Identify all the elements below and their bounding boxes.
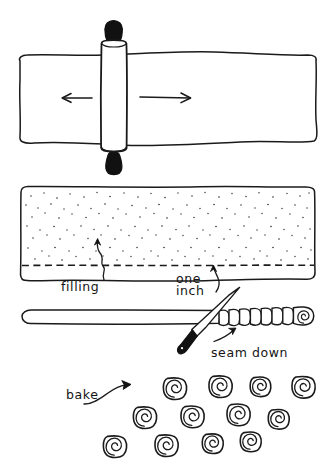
label-filling: filling xyxy=(61,279,99,294)
roll-item xyxy=(240,432,261,452)
roll-item xyxy=(268,410,289,430)
roll-item xyxy=(209,376,232,398)
label-inch: inch xyxy=(176,283,205,298)
rolls-row-1 xyxy=(163,376,315,400)
roll-item xyxy=(250,377,271,396)
panel-spread-filling: filling one inch xyxy=(20,186,315,298)
roll-item xyxy=(292,376,315,398)
panel-bake-rolls: bake xyxy=(66,376,315,458)
knife-handle xyxy=(177,330,197,354)
rolling-pin-body xyxy=(101,40,127,151)
roll-item xyxy=(163,378,186,400)
rolling-pin xyxy=(101,21,127,175)
filling-dough-outline xyxy=(20,186,315,281)
roll-item xyxy=(103,436,126,458)
rolls-row-2 xyxy=(133,404,289,429)
roll-item xyxy=(133,407,156,429)
roll-item xyxy=(227,404,250,426)
dough-log-body xyxy=(22,310,220,324)
roll-item xyxy=(181,406,204,428)
roll-item xyxy=(155,435,178,457)
rolling-pin-handle-bottom xyxy=(106,152,122,175)
log-end-face xyxy=(293,307,313,325)
panel-roll-dough xyxy=(19,21,316,175)
roll-item xyxy=(202,434,223,454)
panel-slice-log: seam down xyxy=(22,287,314,360)
label-bake: bake xyxy=(66,387,98,402)
knife-rivet xyxy=(181,347,183,349)
recipe-illustration: filling one inch xyxy=(0,0,336,468)
seam-down-leader-line xyxy=(214,328,236,342)
illustration-canvas: filling one inch xyxy=(0,0,336,468)
log-slice-segments xyxy=(219,307,314,326)
rolls-row-3 xyxy=(103,432,261,457)
label-seam-down: seam down xyxy=(211,345,288,360)
